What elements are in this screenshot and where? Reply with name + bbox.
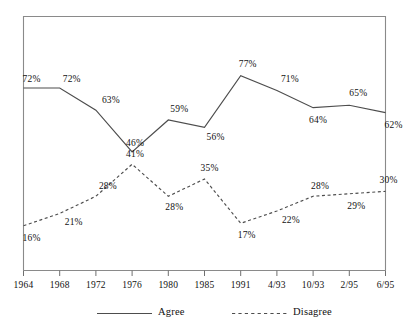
value-label: 17%	[238, 231, 256, 241]
value-label: 62%	[385, 121, 403, 131]
value-label: 21%	[65, 218, 83, 228]
legend-label-disagree: Disagree	[293, 307, 332, 318]
value-label: 28%	[311, 182, 329, 192]
value-label: 72%	[63, 75, 81, 85]
value-label: 59%	[170, 105, 188, 115]
plot-frame	[24, 17, 386, 271]
value-label: 46%	[126, 139, 144, 149]
value-label: 28%	[99, 182, 117, 192]
value-label: 22%	[282, 216, 300, 226]
x-axis-ticks	[24, 271, 386, 277]
value-label: 64%	[309, 116, 327, 126]
legend-line-swatches	[0, 303, 408, 323]
series-line-agree	[24, 76, 386, 152]
value-label: 29%	[347, 202, 365, 212]
line-chart: 72%72%63%46%59%56%77%71%64%65%62%16%21%2…	[0, 0, 408, 329]
value-label: 30%	[380, 176, 398, 186]
value-label: 77%	[239, 60, 257, 70]
value-label: 35%	[201, 164, 219, 174]
x-axis-tick-label: 10/93	[293, 281, 333, 291]
x-axis-tick-label: 4/93	[257, 281, 297, 291]
value-label: 72%	[23, 75, 41, 85]
x-axis-tick-label: 1964	[4, 281, 44, 291]
value-label: 16%	[23, 234, 41, 244]
value-label: 56%	[207, 133, 225, 143]
value-label: 65%	[349, 89, 367, 99]
value-label: 63%	[102, 96, 120, 106]
x-axis-tick-label: 1968	[40, 281, 80, 291]
value-label: 28%	[165, 203, 183, 213]
legend-label-agree: Agree	[158, 307, 185, 318]
x-axis-tick-label: 1991	[221, 281, 261, 291]
series-lines	[24, 76, 386, 226]
x-axis-tick-label: 1976	[112, 281, 152, 291]
x-axis-tick-label: 6/95	[366, 281, 406, 291]
x-axis-tick-label: 1985	[185, 281, 225, 291]
x-axis-tick-label: 1972	[76, 281, 116, 291]
x-axis-tick-label: 2/95	[329, 281, 369, 291]
x-axis-tick-label: 1980	[148, 281, 188, 291]
value-label: 41%	[126, 150, 144, 160]
value-label: 71%	[281, 75, 299, 85]
